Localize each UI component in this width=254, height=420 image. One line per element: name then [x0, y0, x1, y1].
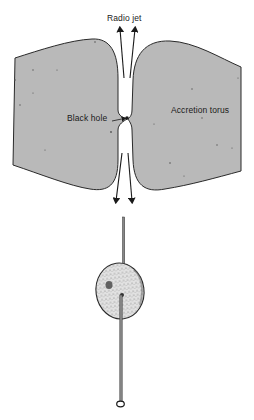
black-hole-label: Black hole [67, 113, 107, 123]
pin-and-sphere-model [92, 217, 147, 407]
accretion-torus-label: Accretion torus [171, 105, 229, 115]
accretion-torus-right-lobe [128, 41, 241, 190]
radio-jet-upper [120, 29, 135, 78]
pin-shaft-upper [123, 217, 125, 267]
torus-diagram [0, 0, 254, 420]
pin-head [117, 401, 125, 407]
sphere-spot [106, 281, 113, 289]
radio-jet-label: Radio jet [107, 13, 141, 23]
pin-shaft-lower [120, 295, 122, 403]
black-hole [125, 116, 129, 120]
